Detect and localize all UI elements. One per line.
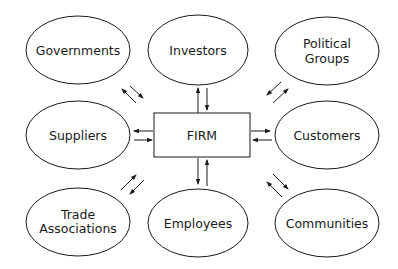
arrows-investors [198, 88, 207, 113]
arrows-employees [198, 158, 207, 186]
arrow-up-right-icon [273, 89, 288, 103]
node-communities: Communities [275, 189, 379, 257]
node-political-groups: Political Groups [275, 17, 379, 85]
arrow-up-right-icon [121, 175, 136, 190]
arrows-customers [251, 131, 272, 140]
node-political-groups-label-line2: Groups [305, 51, 350, 66]
stakeholder-diagram: Governments Investors Political Groups S… [0, 0, 398, 269]
node-trade-associations-label-line2: Associations [39, 221, 117, 236]
arrows-governments [122, 86, 143, 103]
arrow-up-left-icon [267, 182, 282, 197]
arrow-down-left-icon [267, 82, 281, 95]
node-communities-label: Communities [286, 216, 369, 231]
node-firm: FIRM [154, 113, 250, 157]
arrow-up-left-icon [122, 89, 136, 103]
arrow-down-right-icon [273, 174, 288, 189]
arrow-down-right-icon [130, 86, 143, 98]
node-political-groups-label-line1: Political [303, 36, 351, 51]
node-investors-label: Investors [169, 43, 226, 58]
node-suppliers-label: Suppliers [49, 128, 107, 143]
node-customers: Customers [275, 101, 379, 169]
node-governments-label: Governments [36, 43, 120, 58]
arrows-trade-associations [121, 175, 144, 194]
node-customers-label: Customers [293, 128, 360, 143]
arrows-communities [267, 174, 288, 197]
node-employees: Employees [148, 189, 248, 257]
node-investors: Investors [148, 15, 248, 85]
arrows-suppliers [134, 131, 153, 140]
node-governments: Governments [26, 16, 130, 84]
arrow-down-left-icon [130, 180, 144, 194]
node-suppliers: Suppliers [26, 101, 130, 169]
node-employees-label: Employees [164, 216, 232, 231]
node-trade-associations: Trade Associations [26, 188, 130, 256]
node-firm-label: FIRM [187, 128, 217, 143]
node-trade-associations-label-line1: Trade [60, 207, 96, 222]
arrows-political-groups [267, 82, 288, 103]
